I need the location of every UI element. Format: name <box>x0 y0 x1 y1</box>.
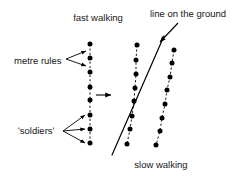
soldier-dot <box>88 98 93 103</box>
soldier-dot <box>134 58 139 63</box>
soldier-dot <box>132 99 137 104</box>
soldier-dot <box>135 43 140 48</box>
label-fast-walking: fast walking <box>73 13 123 24</box>
figure-background <box>0 0 243 176</box>
soldier-dot <box>165 88 170 93</box>
soldier-dot <box>88 127 93 132</box>
soldier-dot <box>88 85 93 90</box>
label-metre-rules: metre rules <box>14 56 62 67</box>
soldier-dot <box>88 113 93 118</box>
soldier-dot <box>130 114 135 119</box>
diagram-canvas: fast walking line on the ground metre ru… <box>0 0 243 176</box>
soldier-dot <box>160 116 165 121</box>
label-line-on-the-ground: line on the ground <box>150 9 226 20</box>
soldier-dot <box>88 70 93 75</box>
soldier-dot <box>88 56 93 61</box>
soldier-dot <box>163 102 168 107</box>
soldier-dot <box>134 72 139 77</box>
soldier-dot <box>125 142 130 147</box>
soldier-dot <box>158 129 163 134</box>
soldier-dot <box>168 75 173 80</box>
physics-diagram-figure: fast walking line on the ground metre ru… <box>0 0 243 176</box>
soldier-dot <box>88 42 93 47</box>
soldier-dot <box>172 48 177 53</box>
soldier-dot <box>128 127 133 132</box>
soldier-dot <box>154 143 159 148</box>
label-soldiers: 'soldiers' <box>18 126 55 137</box>
soldier-dot <box>88 141 93 146</box>
soldier-dot <box>133 86 138 91</box>
label-slow-walking: slow walking <box>134 160 187 171</box>
soldier-dot <box>170 61 175 66</box>
